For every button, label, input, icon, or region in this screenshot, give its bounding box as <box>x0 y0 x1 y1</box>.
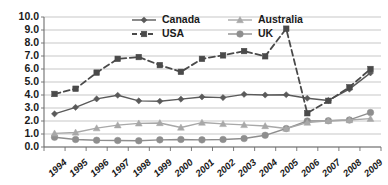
x-axis-tick-label: 2003 <box>234 156 258 179</box>
series-uk <box>51 109 374 144</box>
series-usa-marker-square <box>136 54 142 60</box>
series-usa-marker-square <box>304 110 310 116</box>
series-australia <box>51 115 374 136</box>
legend-label-usa: USA <box>162 27 185 39</box>
series-usa-marker-square <box>94 70 100 76</box>
series-canada-marker-diamond <box>51 111 57 117</box>
x-axis-tick-label: 2006 <box>298 156 322 179</box>
y-axis-labels: 10.09.08.07.06.05.04.03.02.01.00.0 <box>19 10 40 152</box>
x-axis-tick-label: 1998 <box>130 156 154 179</box>
x-axis-tick-label: 2002 <box>213 156 237 179</box>
series-canada-marker-diamond <box>157 98 163 104</box>
x-axis-tick-label: 2008 <box>340 156 364 179</box>
legend-item-usa[interactable]: USA <box>132 27 185 39</box>
series-canada-marker-diamond <box>115 92 121 98</box>
chart-canvas: 10.09.08.07.06.05.04.03.02.01.00.0199419… <box>0 0 388 185</box>
x-axis-tick-label: 1999 <box>151 156 175 179</box>
series-uk-marker-circle <box>199 137 206 144</box>
y-axis-tick-label: 4.0 <box>24 88 39 100</box>
x-axis-tick-label: 2000 <box>171 156 195 179</box>
series-usa-marker-square <box>199 56 205 62</box>
y-axis-tick-label: 9.0 <box>24 23 39 35</box>
series-usa-marker-square <box>262 53 268 59</box>
legend-swatch-canada-marker-diamond <box>141 17 147 23</box>
legend-item-uk[interactable]: UK <box>228 27 274 39</box>
series-uk-marker-circle <box>178 136 185 143</box>
x-axis-tickmarks <box>44 147 381 151</box>
series-usa-marker-square <box>283 26 289 32</box>
series-canada-marker-diamond <box>136 98 142 104</box>
series-canada-marker-diamond <box>262 92 268 98</box>
y-axis-tick-label: 8.0 <box>24 36 39 48</box>
y-axis-tick-label: 2.0 <box>24 114 39 126</box>
series-canada <box>51 70 373 117</box>
series-uk-marker-circle <box>72 136 79 143</box>
series-usa-marker-square <box>326 98 332 104</box>
series-uk-marker-circle <box>241 135 248 142</box>
series-uk-marker-circle <box>220 136 227 143</box>
x-axis-tick-label: 1994 <box>46 156 70 179</box>
x-axis-tick-label: 2004 <box>256 156 280 179</box>
series-uk-marker-circle <box>262 132 269 139</box>
line-chart: 10.09.08.07.06.05.04.03.02.01.00.0199419… <box>0 0 388 185</box>
series-canada-marker-diamond <box>94 96 100 102</box>
series-usa-marker-square <box>178 69 184 75</box>
x-axis-tick-label: 1997 <box>109 156 133 179</box>
y-axis-tick-label: 3.0 <box>24 101 39 113</box>
series-canada-marker-diamond <box>241 91 247 97</box>
series-uk-marker-circle <box>93 137 100 144</box>
legend-label-canada: Canada <box>162 13 200 25</box>
x-axis-tick-label: 1996 <box>88 156 112 179</box>
series-usa-marker-square <box>52 91 58 97</box>
y-axis-tick-label: 6.0 <box>24 62 39 74</box>
series-usa <box>52 26 374 116</box>
series-line-uk <box>55 113 371 141</box>
legend-item-canada[interactable]: Canada <box>132 13 200 25</box>
series-canada-marker-diamond <box>72 104 78 110</box>
series-usa-marker-square <box>73 86 79 92</box>
y-axis-tick-label: 5.0 <box>24 75 39 87</box>
y-axis-tick-label: 7.0 <box>24 49 39 61</box>
series-usa-marker-square <box>347 84 353 90</box>
legend-label-uk: UK <box>258 27 274 39</box>
x-axis-labels: 1994199519961997199819992000200120022003… <box>46 156 386 179</box>
x-axis-tick-label: 2009 <box>361 156 385 179</box>
series-canada-marker-diamond <box>283 92 289 98</box>
series-usa-marker-square <box>115 56 121 62</box>
series-usa-marker-square <box>368 66 374 72</box>
legend-item-australia[interactable]: Australia <box>228 13 303 25</box>
y-axis-tick-label: 1.0 <box>24 127 39 139</box>
series-usa-marker-square <box>241 48 247 54</box>
x-axis-tick-label: 2005 <box>277 156 301 179</box>
legend-swatch-usa-marker-square <box>141 31 147 37</box>
x-axis-tick-label: 1995 <box>67 156 91 179</box>
series-usa-marker-square <box>220 53 226 59</box>
series-canada-marker-diamond <box>304 95 310 101</box>
series-uk-marker-circle <box>114 137 121 144</box>
legend-swatch-uk-marker-circle <box>237 31 244 38</box>
y-axis-tick-label: 0.0 <box>24 140 39 152</box>
series-canada-marker-diamond <box>220 95 226 101</box>
x-axis-tick-label: 2007 <box>319 156 343 179</box>
legend-label-australia: Australia <box>258 13 303 25</box>
series-uk-marker-circle <box>135 137 142 144</box>
y-axis-tick-label: 10.0 <box>19 10 40 22</box>
gridlines-group <box>44 17 381 147</box>
series-uk-marker-circle <box>157 137 164 144</box>
series-canada-marker-diamond <box>178 96 184 102</box>
series-usa-marker-square <box>157 62 163 68</box>
x-axis-tick-label: 2001 <box>192 156 216 179</box>
